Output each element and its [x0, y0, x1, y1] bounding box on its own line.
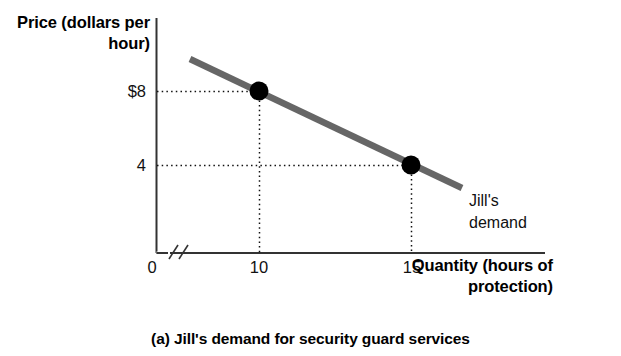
curve-annotation-line-1: Jill's [469, 190, 569, 212]
data-point-marker-10-8 [250, 82, 269, 101]
curve-annotation: Jill's demand [469, 190, 569, 234]
demand-curve-figure: Price (dollars per hour) $8 4 0 10 15 [0, 0, 621, 356]
curve-annotation-line-2: demand [469, 212, 569, 234]
data-point-marker-15-4 [402, 156, 421, 175]
y-tick-label-4: 4 [100, 156, 146, 174]
y-tick-label-8: $8 [100, 82, 146, 100]
plot-area [0, 0, 621, 356]
figure-caption: (a) Jill's demand for security guard ser… [0, 330, 621, 348]
demand-curve-line [190, 59, 462, 188]
x-axis-title: Quantity (hours of protection) [400, 255, 553, 297]
x-tick-label-0: 0 [129, 258, 175, 276]
x-tick-label-10: 10 [236, 258, 282, 276]
